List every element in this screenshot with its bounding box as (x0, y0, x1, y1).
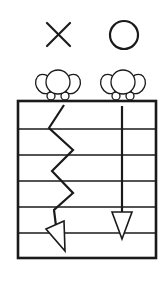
cross-icon (47, 23, 70, 46)
straight-path-arrow (112, 106, 132, 239)
diagram-canvas: × ○ (0, 0, 168, 283)
person-icon-right (98, 70, 149, 100)
lane-grid (18, 101, 156, 258)
circle-icon (110, 21, 138, 49)
zigzag-path-arrow (46, 105, 73, 251)
person-icon-left (33, 70, 84, 100)
